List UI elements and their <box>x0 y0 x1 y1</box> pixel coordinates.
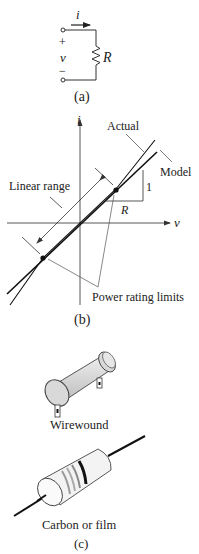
caption-b: (b) <box>74 312 91 328</box>
upper-power-limit-dot <box>113 187 118 192</box>
current-label: i <box>76 7 80 22</box>
lower-power-limit-dot <box>40 255 45 260</box>
bottom-terminal <box>61 78 65 82</box>
resistor-symbol <box>92 46 100 65</box>
v-axis-label: v <box>174 215 180 230</box>
power-rating-limits-label: Power rating limits <box>92 290 184 304</box>
plus-label: + <box>59 35 66 49</box>
voltage-label: v <box>60 50 66 65</box>
right-lead <box>108 436 145 456</box>
slope-rise-label: 1 <box>146 180 152 194</box>
minus-label: − <box>59 64 66 78</box>
carbon-film-resistor-illustration: Carbon or film (c) <box>14 436 145 551</box>
slope-run-label: R <box>120 203 129 217</box>
model-label: Model <box>160 165 192 179</box>
resistor-label: R <box>102 50 112 65</box>
actual-label: Actual <box>107 119 140 133</box>
carbon-film-label: Carbon or film <box>42 518 117 532</box>
caption-c: (c) <box>74 536 88 551</box>
wirewound-label: Wirewound <box>50 418 109 432</box>
i-axis-label: i <box>77 112 81 127</box>
top-terminal <box>61 28 65 32</box>
wirewound-resistor-illustration: Wirewound <box>40 349 119 432</box>
caption-a: (a) <box>74 89 90 105</box>
linear-range-label: Linear range <box>9 179 70 193</box>
circuit-diagram: i + v − R (a) <box>59 7 112 105</box>
slope-triangle <box>106 170 143 201</box>
iv-characteristic-graph: i v Linear range Actual Model 1 R Power … <box>7 112 192 328</box>
